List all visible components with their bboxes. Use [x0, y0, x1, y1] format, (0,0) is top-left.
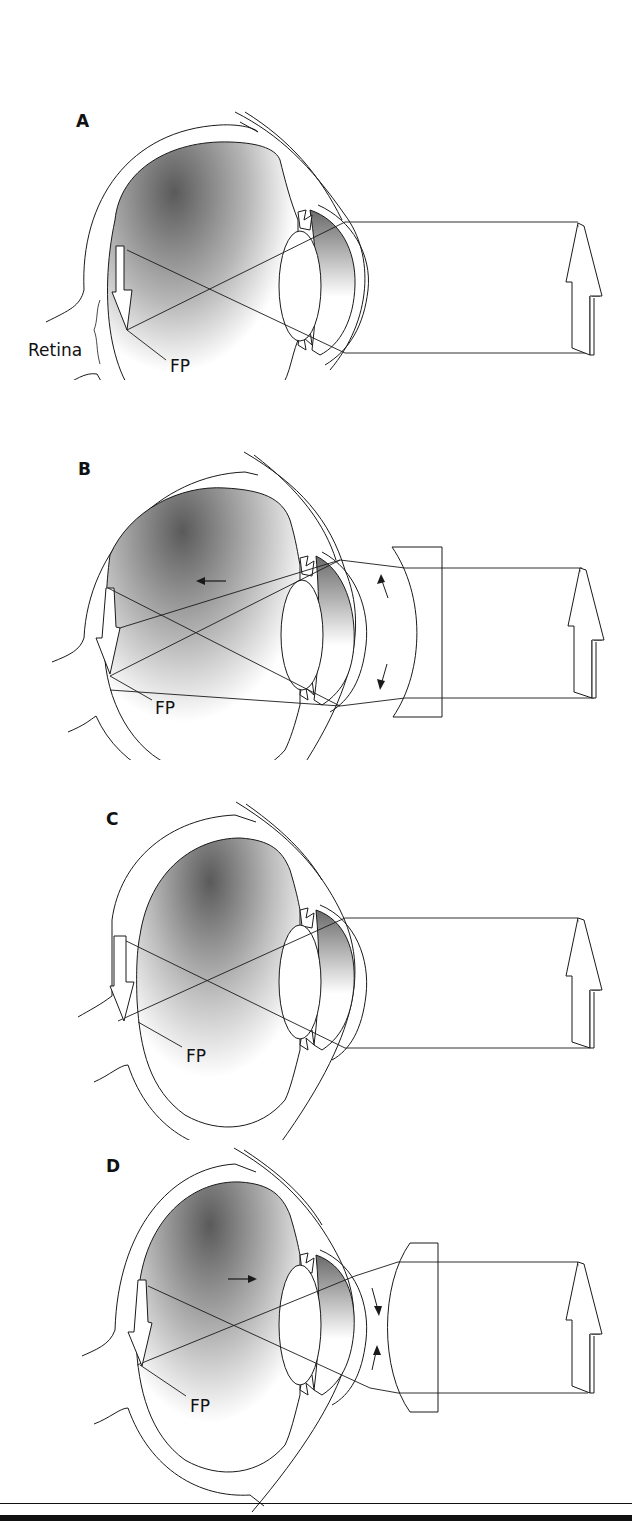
fp-label-c: FP: [186, 1046, 206, 1066]
footer-thick-rule: [0, 1515, 632, 1521]
panel-c: C FP: [0, 760, 632, 1140]
panel-d: D FP: [0, 1140, 632, 1523]
eye-diagram-myopia-corrected: B FP: [0, 380, 632, 760]
diverge-arrow-down-icon: [377, 664, 387, 690]
convex-corrective-lens: [388, 1243, 439, 1412]
panel-label-c: C: [106, 809, 118, 829]
object-arrow-icon: [566, 223, 602, 355]
panel-label-a: A: [76, 111, 90, 131]
panel-label-d: D: [106, 1156, 120, 1176]
fp-label-d: FP: [190, 1396, 210, 1416]
retina-label: Retina: [28, 340, 82, 360]
diverge-arrow-up-icon: [377, 574, 388, 598]
panel-label-b: B: [78, 459, 91, 479]
converge-arrow-down-icon: [372, 1288, 382, 1316]
object-arrow-icon: [566, 918, 602, 1048]
vitreous-body: [108, 142, 298, 380]
panel-a: A Retina FP: [0, 0, 632, 380]
footer-thin-rule: [0, 1503, 632, 1504]
eye-diagram-normal: A Retina FP: [0, 0, 632, 380]
ciliary-body-top: [298, 210, 312, 230]
fp-label-b: FP: [155, 698, 175, 718]
panel-b: B FP: [0, 380, 632, 760]
object-arrow-icon: [566, 1262, 602, 1393]
retina-brace: [94, 300, 100, 364]
concave-corrective-lens: [392, 547, 442, 717]
object-arrow-icon: [568, 568, 604, 698]
image-arrow-icon: [110, 936, 134, 1021]
fp-label-a: FP: [170, 356, 190, 376]
eye-diagram-hyperopia-corrected: D FP: [0, 1140, 632, 1523]
converge-arrow-up-icon: [372, 1345, 381, 1370]
eye-diagram-hyperopia: C FP: [0, 760, 632, 1140]
